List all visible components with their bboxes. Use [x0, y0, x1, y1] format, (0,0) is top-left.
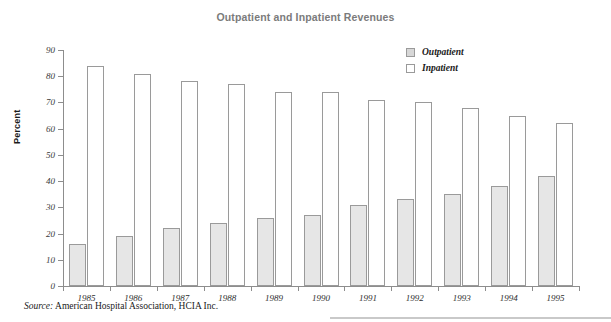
legend-item-outpatient[interactable]: Outpatient	[406, 45, 464, 59]
chart-legend: OutpatientInpatient	[406, 45, 464, 77]
bar-outpatient-1994	[491, 186, 508, 286]
y-tick-mark	[58, 260, 63, 261]
y-tick-mark	[58, 102, 63, 103]
x-tick-mark	[579, 286, 580, 291]
x-tick-label-1993: 1993	[453, 293, 471, 303]
x-tick-label-1990: 1990	[312, 293, 330, 303]
x-tick-mark	[110, 286, 111, 291]
y-tick-label: 10	[46, 255, 55, 265]
x-tick-mark	[251, 286, 252, 291]
x-tick-mark	[63, 286, 64, 291]
y-tick-mark	[58, 207, 63, 208]
bar-inpatient-1994	[509, 116, 526, 286]
x-tick-mark	[391, 286, 392, 291]
x-tick-mark	[438, 286, 439, 291]
x-tick-mark	[204, 286, 205, 291]
bar-inpatient-1987	[181, 81, 198, 286]
bar-outpatient-1985	[69, 244, 86, 286]
x-tick-mark	[485, 286, 486, 291]
bar-outpatient-1993	[444, 194, 461, 286]
bar-inpatient-1986	[134, 74, 151, 286]
source-note: Source: American Hospital Association, H…	[24, 301, 218, 311]
x-tick-mark	[157, 286, 158, 291]
bar-inpatient-1992	[415, 102, 432, 286]
source-text: American Hospital Association, HCIA Inc.	[55, 301, 218, 311]
y-tick-label: 40	[46, 176, 55, 186]
y-tick-label: 20	[46, 229, 55, 239]
x-tick-mark	[344, 286, 345, 291]
x-tick-label-1989: 1989	[265, 293, 283, 303]
x-tick-label-1988: 1988	[218, 293, 236, 303]
bar-inpatient-1985	[87, 66, 104, 286]
y-tick-mark	[58, 155, 63, 156]
bottom-rule	[330, 317, 611, 319]
y-tick-label: 60	[46, 124, 55, 134]
y-tick-label: 50	[46, 150, 55, 160]
y-tick-mark	[58, 129, 63, 130]
bar-group	[304, 50, 339, 286]
bar-group	[444, 50, 479, 286]
x-tick-label-1991: 1991	[359, 293, 377, 303]
bar-group	[163, 50, 198, 286]
x-axis-line	[63, 286, 580, 287]
y-tick-mark	[58, 76, 63, 77]
chart-title: Outpatient and Inpatient Revenues	[0, 11, 611, 23]
bar-group	[491, 50, 526, 286]
bar-outpatient-1987	[163, 228, 180, 286]
bar-outpatient-1990	[304, 215, 321, 286]
x-tick-mark	[298, 286, 299, 291]
bar-group	[116, 50, 151, 286]
bar-outpatient-1991	[350, 205, 367, 286]
y-tick-mark	[58, 181, 63, 182]
bar-outpatient-1989	[257, 218, 274, 286]
bar-inpatient-1991	[368, 100, 385, 286]
bar-group	[69, 50, 104, 286]
bar-inpatient-1990	[322, 92, 339, 286]
legend-label: Inpatient	[422, 63, 458, 73]
x-tick-label-1995: 1995	[547, 293, 565, 303]
bar-group	[257, 50, 292, 286]
bar-outpatient-1995	[538, 176, 555, 286]
bar-inpatient-1993	[462, 108, 479, 286]
bar-outpatient-1992	[397, 199, 414, 286]
y-tick-label: 90	[46, 45, 55, 55]
bar-group	[210, 50, 245, 286]
bar-inpatient-1995	[556, 123, 573, 286]
legend-swatch-icon	[406, 64, 415, 73]
x-tick-mark	[532, 286, 533, 291]
bar-group	[538, 50, 573, 286]
plot-area: 9080706050403020100 19851986198719881989…	[63, 50, 579, 286]
bar-outpatient-1986	[116, 236, 133, 286]
y-tick-mark	[58, 234, 63, 235]
x-tick-label-1992: 1992	[406, 293, 424, 303]
bar-group	[397, 50, 432, 286]
y-axis-title: Percent	[12, 110, 22, 144]
bar-inpatient-1989	[275, 92, 292, 286]
y-tick-label: 0	[51, 281, 56, 291]
legend-swatch-icon	[406, 48, 415, 57]
bar-group	[350, 50, 385, 286]
bar-outpatient-1988	[210, 223, 227, 286]
y-tick-label: 30	[46, 202, 55, 212]
y-tick-mark	[58, 50, 63, 51]
y-tick-label: 70	[46, 97, 55, 107]
y-tick-label: 80	[46, 71, 55, 81]
bar-inpatient-1988	[228, 84, 245, 286]
source-label: Source:	[24, 301, 53, 311]
x-tick-label-1994: 1994	[500, 293, 518, 303]
legend-label: Outpatient	[422, 47, 464, 57]
legend-item-inpatient[interactable]: Inpatient	[406, 61, 464, 75]
